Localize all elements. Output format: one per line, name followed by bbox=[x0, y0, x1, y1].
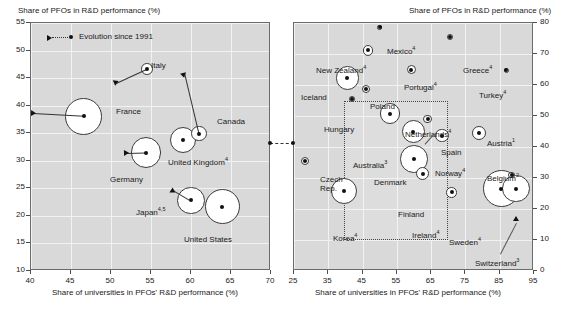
y-axis-tick bbox=[26, 215, 30, 216]
y-axis-tick bbox=[26, 187, 30, 188]
country-label-united-kingdom: United Kingdom4 bbox=[168, 155, 228, 167]
country-label-denmark: Denmark bbox=[374, 178, 406, 187]
gridline-horizontal bbox=[294, 240, 532, 241]
x-axis-tick-label: 85 bbox=[487, 276, 511, 285]
x-axis-tick-label: 65 bbox=[418, 276, 442, 285]
y-axis-tick-label: 20 bbox=[540, 203, 549, 212]
country-label-netherlands: Netherlands4 bbox=[405, 127, 451, 139]
gridline-vertical bbox=[31, 23, 32, 269]
country-label-korea: Korea4 bbox=[333, 231, 357, 243]
y-axis-tick-label: 45 bbox=[4, 72, 25, 81]
x-axis-tick bbox=[396, 270, 397, 274]
x-axis-tick-label: 75 bbox=[452, 276, 476, 285]
y-axis-tick-label: 10 bbox=[540, 234, 549, 243]
x-axis-tick bbox=[293, 270, 294, 274]
data-point-dot bbox=[220, 205, 224, 209]
gridline-horizontal bbox=[31, 243, 269, 244]
y-axis-tick-label: 20 bbox=[4, 210, 25, 219]
x-axis-tick bbox=[30, 270, 31, 274]
legend-evolution-dot bbox=[69, 35, 73, 39]
country-label-mexico: Mexico4 bbox=[387, 44, 415, 56]
evolution-connector bbox=[116, 69, 148, 84]
data-point-dot bbox=[421, 172, 425, 176]
x-axis-tick bbox=[362, 270, 363, 274]
y-axis-tick-label: 10 bbox=[4, 265, 25, 274]
data-point-dot bbox=[514, 187, 518, 191]
y-axis-tick bbox=[533, 208, 537, 209]
legend-label: Evolution since 1991 bbox=[79, 32, 153, 41]
x-axis-tick-label: 70 bbox=[258, 276, 282, 285]
gridline-horizontal bbox=[31, 23, 269, 24]
y-axis-tick bbox=[533, 146, 537, 147]
country-label-france: France bbox=[116, 107, 141, 116]
country-label-japan: Japan4,5 bbox=[136, 205, 165, 217]
switzerland-triangle-marker bbox=[513, 216, 519, 221]
legend-evolution-line bbox=[52, 37, 68, 38]
y-axis-tick bbox=[26, 242, 30, 243]
country-label-czech2: Rep. bbox=[320, 184, 337, 193]
x-axis-tick-label: 25 bbox=[281, 276, 305, 285]
data-point-dot bbox=[145, 67, 149, 71]
panel-link-dot-left bbox=[268, 141, 272, 145]
gridline-vertical bbox=[465, 23, 466, 269]
x-axis-tick bbox=[430, 270, 431, 274]
country-label-new-zealand: New Zealand4 bbox=[316, 63, 366, 75]
y-axis-tick-label: 40 bbox=[4, 100, 25, 109]
left-x-axis-title: Share of universities in PFOs' R&D perfo… bbox=[52, 288, 238, 298]
y-axis-tick bbox=[26, 50, 30, 51]
y-axis-tick bbox=[533, 53, 537, 54]
data-point-dot bbox=[388, 112, 392, 116]
country-label-poland: Poland bbox=[370, 102, 395, 111]
country-label-ireland: Ireland4 bbox=[412, 228, 440, 240]
x-axis-tick-label: 60 bbox=[178, 276, 202, 285]
y-axis-tick-label: 25 bbox=[4, 182, 25, 191]
gridline-horizontal bbox=[31, 51, 269, 52]
y-axis-tick-label: 30 bbox=[540, 172, 549, 181]
data-point-dot bbox=[450, 190, 454, 194]
label-leader-line bbox=[500, 223, 517, 254]
country-label-sweden: Sweden4 bbox=[449, 235, 481, 247]
y-axis-tick-label: 70 bbox=[540, 48, 549, 57]
x-axis-tick bbox=[464, 270, 465, 274]
y-axis-tick-label: 55 bbox=[4, 17, 25, 26]
y-axis-tick bbox=[533, 177, 537, 178]
gridline-vertical bbox=[231, 23, 232, 269]
y-axis-tick-label: 80 bbox=[540, 17, 549, 26]
x-axis-tick bbox=[533, 270, 534, 274]
panel-link-dot-right bbox=[291, 141, 295, 145]
x-axis-tick bbox=[110, 270, 111, 274]
y-axis-tick-label: 15 bbox=[4, 237, 25, 246]
y-axis-tick bbox=[26, 77, 30, 78]
x-axis-tick-label: 55 bbox=[384, 276, 408, 285]
gridline-vertical bbox=[294, 23, 295, 269]
right-y-axis-title: Share of PFOs in R&D performance (%) bbox=[409, 6, 551, 16]
right-x-axis-title: Share of universities in PFOs' R&D perfo… bbox=[315, 288, 501, 298]
y-axis-tick-label: 50 bbox=[4, 45, 25, 54]
gridline-vertical bbox=[328, 23, 329, 269]
x-axis-tick bbox=[499, 270, 500, 274]
x-axis-tick-label: 35 bbox=[315, 276, 339, 285]
y-axis-tick-label: 0 bbox=[540, 265, 544, 274]
country-label-hungary: Hungary bbox=[324, 125, 354, 134]
y-axis-tick bbox=[533, 84, 537, 85]
country-label-turkey: Turkey4 bbox=[479, 88, 506, 100]
x-axis-tick-label: 55 bbox=[138, 276, 162, 285]
data-point-dot bbox=[181, 138, 185, 142]
x-axis-tick bbox=[327, 270, 328, 274]
country-label-iceland: Iceland bbox=[301, 93, 327, 102]
gridline-horizontal bbox=[294, 23, 532, 24]
y-axis-tick-label: 30 bbox=[4, 155, 25, 164]
y-axis-tick-label: 40 bbox=[540, 141, 549, 150]
legend-evolution-arrow bbox=[47, 35, 52, 41]
data-point-dot bbox=[350, 97, 354, 101]
country-label-canada: Canada bbox=[217, 117, 245, 126]
country-label-austria: Austria1 bbox=[487, 136, 515, 148]
country-label-czech1: Czech bbox=[320, 175, 343, 184]
country-label-australia: Australia3 bbox=[353, 158, 387, 170]
country-label-germany: Germany bbox=[110, 175, 143, 184]
x-axis-tick bbox=[270, 270, 271, 274]
evolution-arrow bbox=[30, 110, 35, 116]
y-axis-tick bbox=[26, 22, 30, 23]
data-point-dot bbox=[342, 189, 346, 193]
gridline-horizontal bbox=[31, 133, 269, 134]
